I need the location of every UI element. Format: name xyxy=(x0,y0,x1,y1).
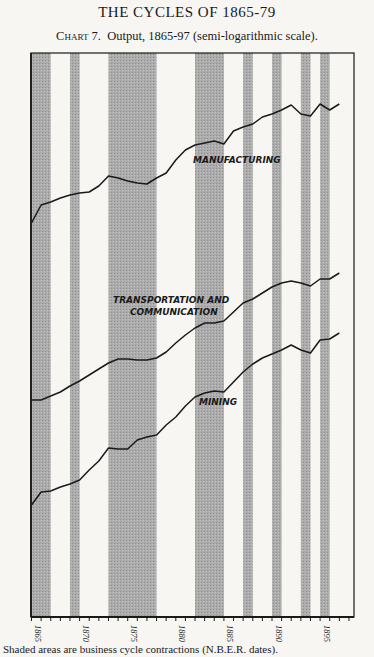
contraction-band xyxy=(70,53,80,617)
x-tick-label: 1885 xyxy=(225,625,235,642)
series-label: COMMUNICATION xyxy=(130,307,218,317)
contraction-band xyxy=(301,53,311,617)
series-label: MANUFACTURING xyxy=(193,155,281,165)
contraction-band xyxy=(195,53,224,617)
contraction-bands xyxy=(32,53,330,617)
x-tick-label: 1890 xyxy=(274,625,284,643)
contraction-band xyxy=(108,53,156,617)
contraction-band xyxy=(32,53,51,617)
chart-caption: Shaded areas are business cycle contract… xyxy=(3,643,278,655)
x-tick-label: 1895 xyxy=(322,625,332,642)
contraction-band xyxy=(243,53,253,617)
contraction-band xyxy=(272,53,282,617)
x-tick-label: 1865 xyxy=(33,625,43,642)
x-tick-label: 1875 xyxy=(129,625,139,642)
contraction-band xyxy=(320,53,330,617)
series-label: MINING xyxy=(199,397,237,407)
x-tick-label: 1880 xyxy=(177,625,187,643)
series-label: TRANSPORTATION AND xyxy=(113,295,230,305)
x-tick-label: 1870 xyxy=(81,625,91,643)
output-chart: 1865187018751880188518901895 MANUFACTURI… xyxy=(0,0,374,657)
x-axis-ticks: 1865187018751880188518901895 xyxy=(32,617,349,643)
